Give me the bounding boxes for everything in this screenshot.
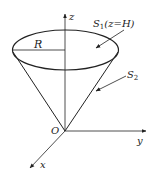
- cone-left-edge: [13, 52, 65, 131]
- top-surface-cond: (z=H): [104, 18, 134, 29]
- top-surface-label: S1(z=H): [93, 18, 135, 31]
- lateral-surface-label: S2: [127, 69, 138, 82]
- s1-pointer: [96, 30, 124, 48]
- z-axis-label: z: [68, 11, 75, 22]
- origin-label: O: [51, 125, 59, 136]
- cone-diagram: z R S1(z=H) S2 O y x: [0, 0, 152, 181]
- lateral-surface-sub: 2: [134, 74, 138, 82]
- cone-right-edge: [65, 52, 118, 131]
- x-axis-label: x: [40, 159, 46, 170]
- radius-label: R: [33, 38, 42, 51]
- y-axis-label: y: [136, 135, 143, 146]
- x-axis: [30, 131, 65, 168]
